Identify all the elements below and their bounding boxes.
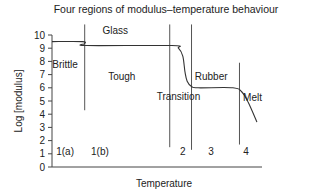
region-label: Transition xyxy=(157,91,201,102)
y-axis-label: Log [modulus] xyxy=(13,69,24,132)
chart-title: Four regions of modulus–temperature beha… xyxy=(54,3,279,15)
region-numbers: 1(a)1(b)234 xyxy=(56,146,249,157)
y-tick-label: 2 xyxy=(39,135,45,146)
region-label: Glass xyxy=(102,25,128,36)
y-tick-label: 9 xyxy=(39,43,45,54)
y-tick-label: 10 xyxy=(34,30,46,41)
region-label: Tough xyxy=(108,71,135,82)
y-tick-label: 5 xyxy=(39,96,45,107)
region-label: Rubber xyxy=(195,71,228,82)
region-number: 3 xyxy=(208,146,214,157)
y-tick-label: 3 xyxy=(39,122,45,133)
y-tick-label: 0 xyxy=(39,162,45,173)
region-label: Melt xyxy=(243,92,262,103)
y-tick-label: 6 xyxy=(39,82,45,93)
region-labels: GlassBrittleToughTransitionRubberMelt xyxy=(52,25,262,103)
region-number: 2 xyxy=(180,146,186,157)
y-tick-label: 4 xyxy=(39,109,45,120)
y-tick-label: 1 xyxy=(39,148,45,159)
y-axis: 012345678910 xyxy=(34,30,52,173)
x-axis-label: Temperature xyxy=(136,178,193,189)
y-tick-label: 8 xyxy=(39,56,45,67)
region-number: 4 xyxy=(243,146,249,157)
region-number: 1(a) xyxy=(56,146,74,157)
modulus-temperature-chart: Four regions of modulus–temperature beha… xyxy=(0,0,312,191)
region-label: Brittle xyxy=(52,59,78,70)
region-number: 1(b) xyxy=(91,146,109,157)
y-tick-label: 7 xyxy=(39,69,45,80)
